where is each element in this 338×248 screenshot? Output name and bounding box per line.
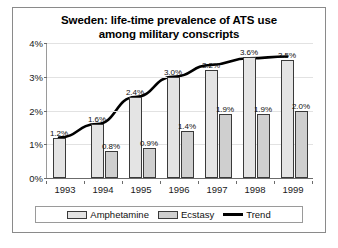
- bar-value-label: 1.4%: [178, 122, 196, 131]
- y-axis-label: 0%: [29, 173, 43, 184]
- bar-amphetamine[interactable]: 2.4%: [129, 97, 142, 178]
- bar-group: 2.4%0.9%: [123, 43, 161, 178]
- y-axis-label: 2%: [29, 105, 43, 116]
- bar-value-label: 3.6%: [240, 48, 258, 57]
- bar-amphetamine[interactable]: 1.2%: [53, 138, 66, 179]
- legend-item-amphetamine: Amphetamine: [67, 209, 149, 220]
- legend-item-trend: Trend: [223, 209, 270, 220]
- x-axis-label: 1997: [206, 184, 227, 195]
- bar-ecstasy[interactable]: 1.4%: [181, 131, 194, 178]
- x-axis-tick: [274, 181, 275, 184]
- x-axis-tick: [122, 181, 123, 184]
- bar-group: 1.6%0.8%: [85, 43, 123, 178]
- bar-ecstasy[interactable]: 1.9%: [219, 114, 232, 178]
- bar-value-label: 1.9%: [216, 105, 234, 114]
- bar-group: 3.0%1.4%: [161, 43, 199, 178]
- x-axis-label: 1996: [168, 184, 189, 195]
- bar-ecstasy[interactable]: 0.9%: [143, 148, 156, 178]
- bar-group: 1.2%: [47, 43, 85, 178]
- bar-amphetamine[interactable]: 3.2%: [205, 70, 218, 178]
- bar-group: 3.2%1.9%: [199, 43, 237, 178]
- bar-value-label: 3.2%: [202, 61, 220, 70]
- bar-value-label: 0.9%: [140, 139, 158, 148]
- x-axis-tick: [236, 181, 237, 184]
- legend-swatch-ecstasy: [158, 211, 178, 219]
- bar-value-label: 3.0%: [164, 68, 182, 77]
- legend-item-ecstasy: Ecstasy: [158, 209, 214, 220]
- chart-title-line-1: Sweden: life-time prevalence of ATS use: [23, 14, 315, 28]
- bar-value-label: 1.9%: [254, 105, 272, 114]
- x-axis-label: 1993: [54, 184, 75, 195]
- bar-group: 3.5%2.0%: [275, 43, 313, 178]
- bar-value-label: 1.6%: [88, 115, 106, 124]
- y-axis-label: 1%: [29, 139, 43, 150]
- bar-value-label: 2.4%: [126, 88, 144, 97]
- x-axis-label: 1995: [130, 184, 151, 195]
- bar-value-label: 3.5%: [278, 51, 296, 60]
- y-axis-label: 4%: [29, 38, 43, 49]
- bar-value-label: 0.8%: [102, 142, 120, 151]
- y-axis-tick: [44, 178, 47, 179]
- legend-swatch-amphetamine: [67, 211, 87, 219]
- chart-title-line-2: among military conscripts: [23, 28, 315, 42]
- bar-group: 3.6%1.9%: [237, 43, 275, 178]
- x-axis-label: 1994: [92, 184, 113, 195]
- legend-swatch-trend: [223, 213, 243, 216]
- x-axis-label: 1998: [244, 184, 265, 195]
- bar-value-label: 2.0%: [292, 102, 310, 111]
- legend-label-trend: Trend: [246, 209, 270, 220]
- plot-area: 0%1%2%3%4%1.2%1.6%0.8%2.4%0.9%3.0%1.4%3.…: [46, 43, 313, 179]
- legend-label-amphetamine: Amphetamine: [90, 209, 149, 220]
- x-axis-tick: [84, 181, 85, 184]
- x-axis-label: 1999: [282, 184, 303, 195]
- x-axis-tick: [312, 181, 313, 184]
- legend-label-ecstasy: Ecstasy: [181, 209, 214, 220]
- chart-container: Sweden: life-time prevalence of ATS use …: [12, 7, 326, 233]
- bar-value-label: 1.2%: [50, 129, 68, 138]
- x-axis-tick: [198, 181, 199, 184]
- chart-title: Sweden: life-time prevalence of ATS use …: [23, 14, 315, 41]
- bar-ecstasy[interactable]: 1.9%: [257, 114, 270, 178]
- bar-ecstasy[interactable]: 0.8%: [105, 151, 118, 178]
- bar-amphetamine[interactable]: 1.6%: [91, 124, 104, 178]
- bar-amphetamine[interactable]: 3.5%: [281, 60, 294, 178]
- x-axis: 1993199419951996199719981999: [46, 181, 313, 197]
- x-axis-tick: [46, 181, 47, 184]
- bar-ecstasy[interactable]: 2.0%: [295, 111, 308, 179]
- bar-amphetamine[interactable]: 3.6%: [243, 57, 256, 179]
- x-axis-tick: [160, 181, 161, 184]
- y-axis-label: 3%: [29, 71, 43, 82]
- chart-legend: Amphetamine Ecstasy Trend: [35, 206, 303, 223]
